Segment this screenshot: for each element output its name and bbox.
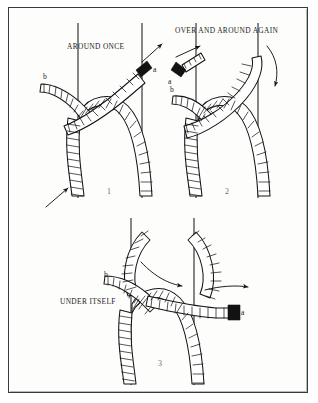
panel-2: OVER AND AROUND AGAIN a b 2 — [168, 23, 279, 198]
panel-2-arrow-around-post — [267, 46, 277, 86]
panel-3-label-b: b — [104, 270, 108, 279]
panel-1-label-a: a — [153, 65, 157, 74]
panel-1-arrow-working-end — [142, 44, 162, 62]
panel-3: UNDER ITSELF a b 3 — [60, 218, 248, 385]
panel-1: AROUND ONCE a b 1 — [40, 23, 162, 207]
panel-1-label-b: b — [43, 72, 47, 81]
panel-3-rope-end-tag-a — [228, 305, 240, 320]
panel-2-rope — [172, 53, 270, 196]
panel-3-number: 3 — [158, 359, 162, 368]
knot-diagram-page: AROUND ONCE a b 1 — [0, 0, 318, 403]
panel-3-caption: UNDER ITSELF — [60, 297, 116, 306]
panel-3-label-a: a — [241, 308, 245, 317]
knot-illustration: AROUND ONCE a b 1 — [0, 0, 318, 403]
panel-2-label-b: b — [170, 85, 174, 94]
panel-3-arrow-wrap — [141, 262, 182, 286]
panel-1-rope — [40, 73, 152, 196]
panel-2-caption: OVER AND AROUND AGAIN — [175, 26, 279, 35]
panel-1-caption: AROUND ONCE — [67, 42, 125, 51]
panel-3-rope — [104, 231, 232, 384]
panel-1-arrow-lower-left — [46, 188, 68, 207]
panel-1-number: 1 — [107, 187, 111, 196]
panel-2-number: 2 — [225, 187, 229, 196]
